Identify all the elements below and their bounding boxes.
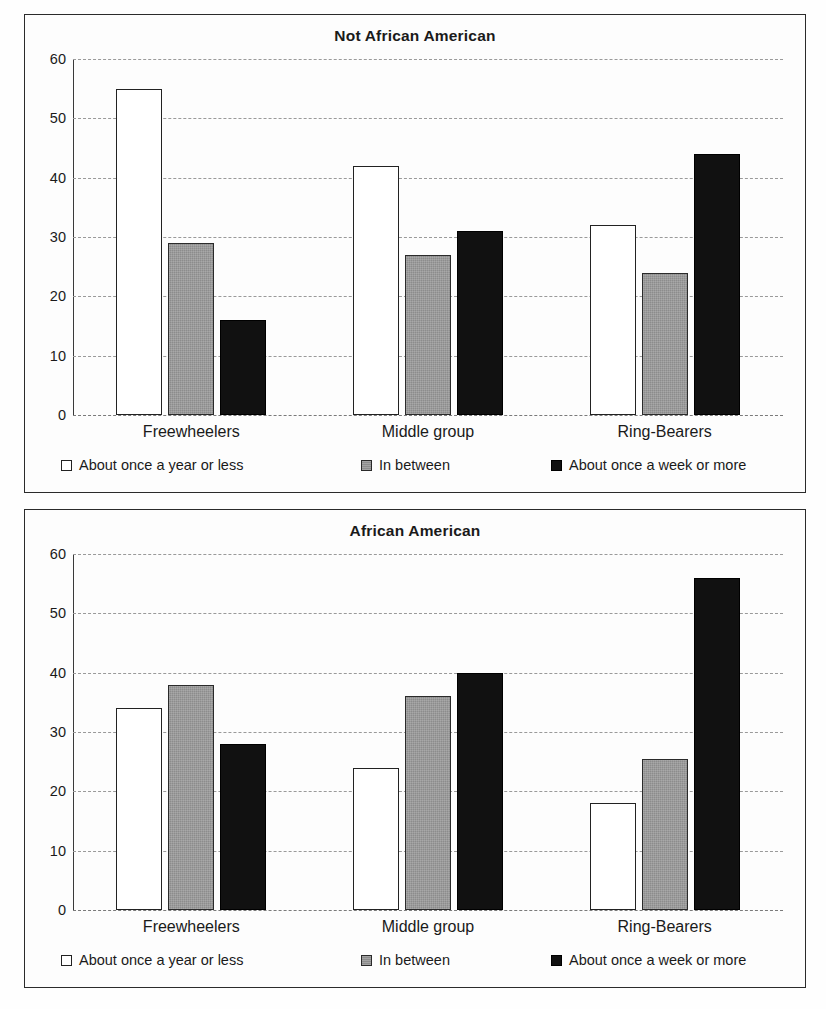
y-axis-tick-label: 60 (50, 51, 66, 67)
y-axis-tick-label: 20 (50, 783, 66, 799)
plot-area: 0102030405060FreewheelersMiddle groupRin… (73, 59, 783, 415)
legend-label: In between (379, 952, 450, 968)
category-label: Ring-Bearers (590, 423, 740, 441)
y-axis-tick-label: 50 (50, 605, 66, 621)
figure-root: Not African American 0102030405060Freewh… (0, 0, 826, 1009)
category-label: Freewheelers (116, 423, 266, 441)
bar-group: Ring-Bearers (590, 59, 740, 415)
legend: About once a year or less In between Abo… (61, 947, 785, 973)
y-axis-tick-label: 30 (50, 229, 66, 245)
bar[interactable] (116, 708, 162, 910)
legend-item-once-a-week-or-more[interactable]: About once a week or more (551, 952, 746, 968)
y-axis-tick-label: 10 (50, 843, 66, 859)
legend-swatch-icon (61, 955, 72, 966)
bar[interactable] (405, 696, 451, 910)
y-axis-tick-label: 40 (50, 665, 66, 681)
y-axis-tick-label: 50 (50, 110, 66, 126)
y-axis-tick-label: 40 (50, 170, 66, 186)
legend-item-in-between[interactable]: In between (361, 457, 551, 473)
bar[interactable] (457, 231, 503, 415)
y-axis-tick-label: 0 (58, 902, 66, 918)
chart-panel-not-african-american: Not African American 0102030405060Freewh… (24, 14, 806, 493)
bar[interactable] (694, 154, 740, 415)
bar[interactable] (457, 673, 503, 910)
bar[interactable] (116, 89, 162, 415)
bar[interactable] (168, 685, 214, 910)
legend-label: In between (379, 457, 450, 473)
y-axis-tick-label: 20 (50, 288, 66, 304)
y-axis-tick-label: 10 (50, 348, 66, 364)
legend-swatch-icon (61, 460, 72, 471)
legend-item-once-a-week-or-more[interactable]: About once a week or more (551, 457, 746, 473)
category-label: Middle group (353, 918, 503, 936)
bar-group: Middle group (353, 554, 503, 910)
bar[interactable] (694, 578, 740, 910)
chart-panel-african-american: African American 0102030405060Freewheele… (24, 509, 806, 988)
legend-item-once-a-year-or-less[interactable]: About once a year or less (61, 457, 361, 473)
y-axis-tick-label: 0 (58, 407, 66, 423)
legend-swatch-icon (361, 460, 372, 471)
category-label: Freewheelers (116, 918, 266, 936)
bar[interactable] (220, 320, 266, 415)
gridline-0 (73, 910, 783, 911)
bar[interactable] (590, 803, 636, 910)
bar[interactable] (353, 166, 399, 415)
bar-group: Freewheelers (116, 59, 266, 415)
y-axis-tick-label: 60 (50, 546, 66, 562)
y-axis-tick-label: 30 (50, 724, 66, 740)
bar-group: Freewheelers (116, 554, 266, 910)
bar[interactable] (642, 759, 688, 910)
bar[interactable] (168, 243, 214, 415)
bar[interactable] (405, 255, 451, 415)
category-label: Ring-Bearers (590, 918, 740, 936)
panel-title: African American (25, 522, 805, 540)
legend-swatch-icon (551, 460, 562, 471)
legend-swatch-icon (551, 955, 562, 966)
legend-label: About once a year or less (79, 952, 243, 968)
legend-swatch-icon (361, 955, 372, 966)
bar-group: Middle group (353, 59, 503, 415)
legend-label: About once a week or more (569, 952, 746, 968)
legend: About once a year or less In between Abo… (61, 452, 785, 478)
category-label: Middle group (353, 423, 503, 441)
gridline-0 (73, 415, 783, 416)
bar[interactable] (590, 225, 636, 415)
bar[interactable] (220, 744, 266, 910)
legend-item-once-a-year-or-less[interactable]: About once a year or less (61, 952, 361, 968)
bar[interactable] (353, 768, 399, 910)
bar[interactable] (642, 273, 688, 415)
plot-area: 0102030405060FreewheelersMiddle groupRin… (73, 554, 783, 910)
panel-title: Not African American (25, 27, 805, 45)
legend-label: About once a year or less (79, 457, 243, 473)
bar-group: Ring-Bearers (590, 554, 740, 910)
legend-item-in-between[interactable]: In between (361, 952, 551, 968)
legend-label: About once a week or more (569, 457, 746, 473)
